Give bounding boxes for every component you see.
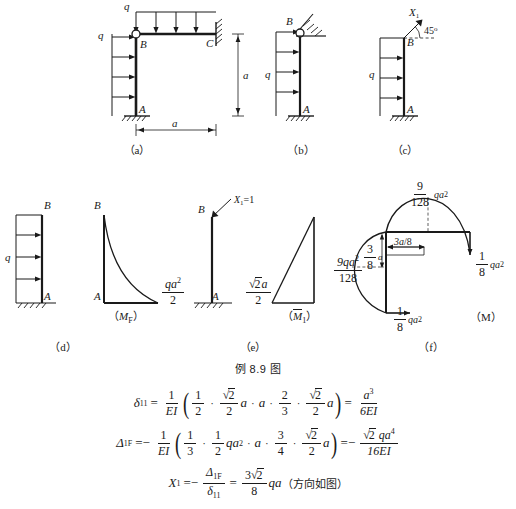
panel-a-dim-horizontal: a: [172, 117, 178, 129]
figure-row-top: q q B C A a a B A q B A q X1 45o: [0, 0, 516, 160]
panel-a-drawing: [112, 12, 244, 136]
panel-b-joint-b: B: [286, 15, 293, 27]
panel-e-m1-diagram: [272, 217, 314, 303]
panel-a-dim-vertical: a: [243, 69, 249, 81]
panel-c-load-label: q: [369, 68, 375, 80]
panel-f-right-value: 1 8 qa2: [474, 250, 504, 278]
panel-c-joint-a: A: [406, 103, 414, 115]
panel-e-m1-value: √2a 2: [244, 277, 273, 306]
panel-a-joint-a: A: [138, 103, 146, 115]
panel-e-unit-force-label: X1=1: [233, 194, 254, 207]
panel-e-joint-b: B: [198, 203, 205, 215]
panel-e-diagram-name: （M1）: [282, 307, 317, 325]
panel-d-mp-joint-a: A: [93, 290, 101, 302]
equation-delta-11: δ11 = 1 EI ( 12 · √2 2 a · a · 23 · √2 2…: [0, 383, 516, 423]
panel-d-mp-value: qa2 2: [160, 277, 186, 306]
panel-f-sublabel: （f）: [416, 338, 446, 354]
panel-a-joint-b: B: [140, 38, 147, 50]
panel-a-joint-c: C: [206, 37, 214, 49]
equation-X1: X1 =− Δ1F δ11 = 3√2 8 qa （方向如图）: [0, 463, 516, 503]
panel-c-force-label: X1: [408, 6, 420, 20]
panel-f-dim-vertical: 3 8 a: [362, 243, 383, 271]
panel-d-joint-b: B: [44, 199, 51, 211]
panel-a-sublabel: （a）: [122, 141, 152, 157]
panel-d-sublabel: （d）: [48, 338, 78, 354]
panel-b-sublabel: （b）: [286, 141, 316, 157]
panel-f-diagram-name: （M）: [470, 308, 502, 324]
panel-e-joint-a: A: [211, 290, 219, 302]
panel-f-top-value: 9 128 qa2: [406, 180, 448, 208]
equation-note: （方向如图）: [282, 475, 348, 491]
figure-page: q q B C A a a B A q B A q X1 45o （a） （b）…: [0, 0, 516, 509]
panel-d-load-label: q: [5, 251, 11, 263]
panel-b-drawing: [276, 14, 326, 121]
panel-b-load-label: q: [265, 68, 271, 80]
panel-a-load-label-top: q: [124, 0, 130, 12]
equation-delta-1F: Δ1F =− 1 EI ( 13 · 12qa2 · a · 34 · √2 2…: [0, 423, 516, 463]
equation-block: δ11 = 1 EI ( 12 · √2 2 a · a · 23 · √2 2…: [0, 383, 516, 503]
panel-e-sublabel: （e）: [238, 338, 268, 354]
panel-f-left-value: 9qa2 128: [332, 255, 364, 284]
panel-f-dim-horizontal: 3a/8: [394, 236, 412, 247]
panel-b-joint-a: A: [302, 103, 310, 115]
panel-c-sublabel: （c）: [390, 141, 420, 157]
panel-c-joint-b: B: [407, 36, 414, 48]
panel-a-load-label-left: q: [98, 29, 104, 41]
panel-d-diagram-name: （MF）: [108, 307, 144, 325]
panel-c-angle-label: 45o: [424, 25, 438, 36]
figure-caption: 例 8.9 图: [0, 360, 516, 376]
panel-d-mp-joint-b: B: [94, 199, 101, 211]
panel-d-joint-a: A: [43, 290, 51, 302]
panel-d-mp-diagram: [104, 215, 158, 303]
panel-f-bottom-value: 1 8 qa2: [392, 305, 422, 333]
